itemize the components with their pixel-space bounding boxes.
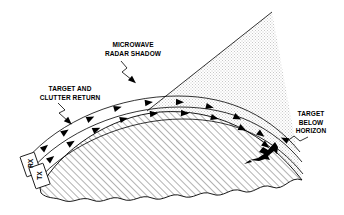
microwave-leader <box>121 61 132 80</box>
microwave-radar-shadow-label: MICROWAVE RADAR SHADOW <box>99 41 168 58</box>
diagram-canvas: MICROWAVE RADAR SHADOW TARGET AND CLUTTE… <box>0 0 344 215</box>
tx-label: TX <box>36 171 43 180</box>
radar-shadow-diagram <box>0 0 344 215</box>
target-and-clutter-return-label: TARGET AND CLUTTER RETURN <box>33 85 107 102</box>
clutter-leader <box>58 103 68 121</box>
target-below-horizon-label: TARGET BELOW HORIZON <box>285 110 337 136</box>
rx-label: RX <box>27 159 34 168</box>
microwave-leader-arrow <box>128 76 138 86</box>
